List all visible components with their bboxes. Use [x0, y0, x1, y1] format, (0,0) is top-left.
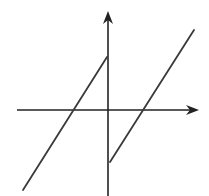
- right-branch-line: [110, 30, 194, 162]
- y-axis: [103, 11, 113, 196]
- graph-svg: [0, 0, 209, 196]
- left-branch-line: [23, 57, 107, 190]
- function-graph: [0, 0, 209, 196]
